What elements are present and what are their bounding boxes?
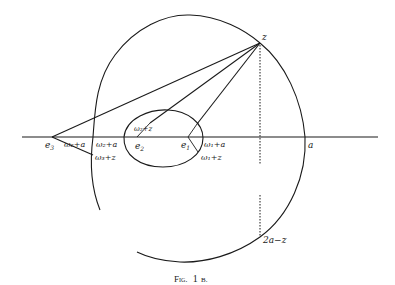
inner-ellipse-curve [124,110,203,167]
segment-e1-up [188,124,197,137]
figure-diagram: z a 2a−z e3 e2 e1 ω₂+a ω₂+a ω₃+z ω₂+z ω₁… [0,0,395,285]
label-a: a [308,140,313,150]
figure-caption: Fig. 1 B. [174,273,208,284]
label-omega2-plus-z: ω₂+z [134,125,152,133]
label-e3: e3 [45,140,54,151]
line-z-to-e3 [52,43,260,137]
label-omega1-plus-a: ω₁+a [204,140,225,149]
label-omega1-plus-z: ω₁+z [201,153,222,162]
outer-boundary-curve [91,15,305,262]
label-omega3-plus-z: ω₃+z [95,153,116,162]
label-e1: e1 [181,140,190,151]
line-z-to-omega2-plus-z [150,43,260,123]
line-z-to-omega1-plus-z [197,43,260,124]
label-omega2-plus-a-left: ω₂+a [64,140,85,149]
label-2a-minus-z: 2a−z [262,235,287,245]
label-omega2-plus-a-right: ω₂+a [96,140,117,149]
label-e2: e2 [135,141,144,152]
label-z: z [261,32,267,42]
